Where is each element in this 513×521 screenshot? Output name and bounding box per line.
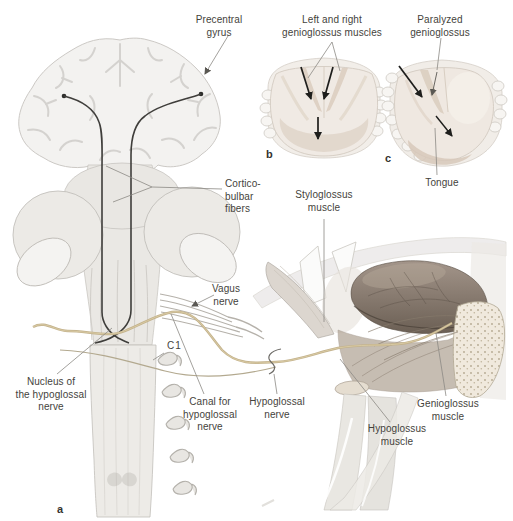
label-corticobulbar-fibers: Cortico- bulbar fibers xyxy=(225,178,261,216)
lateral-tongue-view xyxy=(253,238,506,510)
label-hypoglossal-nerve: Hypoglossal nerve xyxy=(249,396,305,421)
panel-letter-c: c xyxy=(385,152,391,164)
panel-c-tongue-paralyzed xyxy=(382,60,507,166)
label-c1: C1 xyxy=(167,340,182,353)
label-hypoglossus-muscle: Hypoglossus muscle xyxy=(368,423,426,448)
spinal-cord xyxy=(90,345,156,517)
label-precentral-gyrus: Precentral gyrus xyxy=(196,14,243,39)
hyoid-bone xyxy=(335,380,370,396)
panel-letter-a: a xyxy=(57,503,63,515)
brain-coronal-section xyxy=(19,38,221,175)
panel-b-tongue-normal xyxy=(260,58,387,158)
label-genioglossus-muscle: Genioglossus muscle xyxy=(416,398,481,423)
figure: Precentral gyrus Left and right genioglo… xyxy=(0,0,513,521)
panel-letter-b: b xyxy=(266,148,273,160)
leader-precentral-gyrus xyxy=(205,36,228,74)
label-tongue: Tongue xyxy=(425,177,458,190)
label-left-right-genioglossus: Left and right genioglossus muscles xyxy=(282,14,382,39)
anatomical-illustration xyxy=(0,0,513,521)
leader-hypoglossal-nerve xyxy=(274,374,277,394)
label-nucleus-hypoglossal: Nucleus of the hypoglossal nerve xyxy=(16,376,87,414)
leader-vagus xyxy=(192,295,214,306)
label-paralyzed-genioglossus: Paralyzed genioglossus xyxy=(410,14,470,39)
label-styloglossus-muscle: Styloglossus muscle xyxy=(295,189,352,214)
label-vagus-nerve: Vagus nerve xyxy=(212,283,240,308)
label-canal-hypoglossal: Canal for hypoglossal nerve xyxy=(183,396,237,434)
brainstem xyxy=(8,163,264,517)
